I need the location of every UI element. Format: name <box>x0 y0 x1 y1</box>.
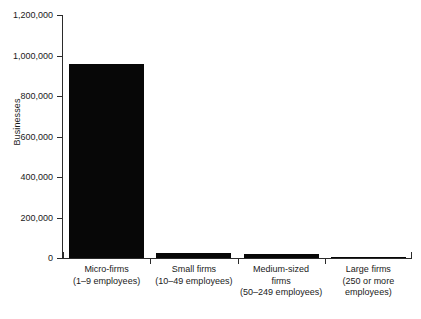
y-axis-tick <box>57 137 63 138</box>
y-axis-tick-label: 0 <box>48 253 53 263</box>
y-axis-tick-label: 600,000 <box>20 132 53 142</box>
y-axis-tick <box>57 96 63 97</box>
y-axis-title: Businesses <box>12 67 22 177</box>
x-axis-start-cap <box>63 252 64 259</box>
x-axis-label-line: employees) <box>319 287 418 299</box>
y-axis-tick <box>57 177 63 178</box>
bar-chart: Businesses 1,200,0001,000,000800,000600,… <box>0 0 421 319</box>
x-axis-label-small-firms: Small firms(10–49 employees) <box>144 264 243 287</box>
bar-small-firms <box>156 253 231 258</box>
x-axis-label-line: Small firms <box>144 264 243 276</box>
bar-micro-firms <box>69 64 144 258</box>
y-axis-tick-label: 400,000 <box>20 172 53 182</box>
y-axis-tick-label: 1,200,000 <box>13 10 53 20</box>
y-axis-tick-label: 200,000 <box>20 213 53 223</box>
x-axis-label-line: Medium-sized <box>232 264 331 276</box>
y-axis-tick-label: 800,000 <box>20 91 53 101</box>
x-axis-end-cap <box>411 252 412 259</box>
x-axis-label-line: (250 or more <box>319 276 418 288</box>
bar-large-firms <box>331 257 406 259</box>
bar-medium-sized-firms <box>244 254 319 258</box>
x-axis-label-line: firms <box>232 276 331 288</box>
x-axis-label-line: (50–249 employees) <box>232 287 331 299</box>
x-axis-label-line: (1–9 employees) <box>57 276 156 288</box>
y-axis-tick <box>57 56 63 57</box>
y-axis-tick <box>57 218 63 219</box>
x-axis-label-line: Large firms <box>319 264 418 276</box>
x-axis-label-large-firms: Large firms(250 or moreemployees) <box>319 264 418 299</box>
x-axis-label-line: Micro-firms <box>57 264 156 276</box>
x-axis-label-line: (10–49 employees) <box>144 276 243 288</box>
x-axis-label-micro-firms: Micro-firms(1–9 employees) <box>57 264 156 287</box>
y-axis-tick <box>57 15 63 16</box>
x-axis-label-medium-sized-firms: Medium-sizedfirms(50–249 employees) <box>232 264 331 299</box>
y-axis-tick-label: 1,000,000 <box>13 51 53 61</box>
